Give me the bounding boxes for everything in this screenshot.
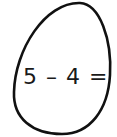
equation-text: 5 – 4 = bbox=[23, 64, 109, 89]
